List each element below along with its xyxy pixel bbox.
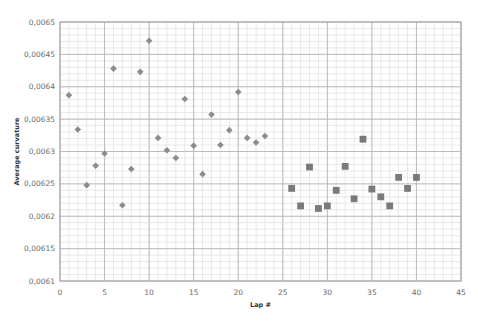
square-marker bbox=[413, 174, 420, 181]
square-marker bbox=[386, 202, 393, 209]
diamond-marker bbox=[92, 162, 99, 169]
x-tick-label: 35 bbox=[367, 288, 377, 297]
y-tick-label: 0,0064 bbox=[29, 82, 55, 91]
x-tick-label: 40 bbox=[412, 288, 422, 297]
diamond-marker bbox=[199, 171, 206, 178]
y-tick-label: 0,00645 bbox=[24, 50, 55, 59]
square-marker bbox=[360, 136, 367, 143]
diamond-marker bbox=[146, 37, 153, 44]
x-axis-title: Lap # bbox=[250, 301, 271, 309]
x-tick-label: 45 bbox=[456, 288, 466, 297]
diamond-marker bbox=[173, 155, 180, 162]
square-marker bbox=[333, 187, 340, 194]
y-tick-label: 0,0061 bbox=[29, 277, 55, 286]
square-marker bbox=[377, 193, 384, 200]
square-marker bbox=[351, 195, 358, 202]
square-marker bbox=[395, 174, 402, 181]
y-tick-label: 0,0062 bbox=[29, 212, 55, 221]
data-points bbox=[66, 37, 420, 211]
square-marker bbox=[315, 205, 322, 212]
y-axis-title: Average curvature bbox=[13, 117, 21, 186]
x-tick-label: 15 bbox=[189, 288, 199, 297]
y-tick-label: 0,00615 bbox=[24, 244, 55, 253]
diamond-marker bbox=[164, 147, 171, 154]
square-marker bbox=[404, 185, 411, 192]
diamond-marker bbox=[235, 89, 242, 96]
diamond-marker bbox=[110, 65, 117, 72]
y-tick-label: 0,0063 bbox=[29, 147, 55, 156]
diamond-marker bbox=[83, 182, 90, 189]
x-tick-label: 5 bbox=[102, 288, 107, 297]
scatter-chart: 0,00610,006150,00620,006250,00630,006350… bbox=[0, 0, 478, 327]
diamond-marker bbox=[190, 142, 197, 149]
y-tick-label: 0,0065 bbox=[29, 18, 55, 27]
square-marker bbox=[324, 202, 331, 209]
diamond-marker bbox=[217, 142, 224, 149]
diamond-marker bbox=[244, 135, 251, 142]
x-axis-tick-labels: 051015202530354045 bbox=[58, 288, 466, 297]
square-marker bbox=[288, 185, 295, 192]
x-tick-label: 30 bbox=[323, 288, 333, 297]
y-tick-label: 0,00625 bbox=[24, 179, 55, 188]
y-tick-label: 0,00635 bbox=[24, 115, 55, 124]
x-tick-label: 0 bbox=[58, 288, 63, 297]
square-marker bbox=[297, 202, 304, 209]
diamond-marker bbox=[155, 135, 162, 142]
diamond-marker bbox=[181, 96, 188, 103]
x-tick-label: 25 bbox=[278, 288, 288, 297]
y-axis-tick-labels: 0,00610,006150,00620,006250,00630,006350… bbox=[24, 18, 55, 286]
square-marker bbox=[306, 164, 313, 171]
square-marker bbox=[342, 163, 349, 170]
x-tick-label: 20 bbox=[233, 288, 243, 297]
x-tick-label: 10 bbox=[144, 288, 154, 297]
square-marker bbox=[368, 186, 375, 193]
